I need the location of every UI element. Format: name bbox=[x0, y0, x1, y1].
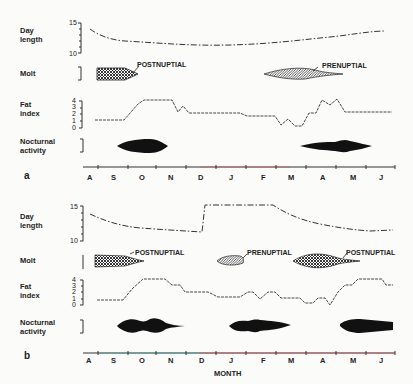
month-label: O bbox=[139, 356, 145, 365]
month-label: M bbox=[288, 173, 294, 182]
month-label: N bbox=[168, 356, 173, 365]
fat-index-curve bbox=[97, 279, 393, 305]
month-label: A bbox=[320, 356, 326, 365]
nocturnal-axis bbox=[80, 139, 83, 152]
month-labels-a: A S O N D J F M A M J bbox=[87, 173, 383, 182]
month-label: J bbox=[379, 356, 383, 365]
molt-postnuptial-shape bbox=[95, 255, 144, 267]
postnuptial-label: POSTNUPTIAL bbox=[135, 249, 185, 256]
month-label: D bbox=[198, 173, 204, 182]
day-length-label-line2: length bbox=[20, 221, 43, 230]
fat-tick-0: 0 bbox=[72, 124, 76, 131]
fat-index-axis bbox=[79, 101, 82, 128]
fat-index-axis bbox=[80, 280, 83, 305]
month-label: J bbox=[229, 356, 233, 365]
molt-label: Molt bbox=[20, 256, 36, 265]
day-length-label-line1: Day bbox=[20, 26, 35, 35]
month-label: N bbox=[168, 173, 173, 182]
day-tick-10: 10 bbox=[69, 50, 77, 57]
fat-label-line1: Fat bbox=[20, 282, 32, 291]
panel-b-label: b bbox=[24, 350, 30, 361]
molt-label: Molt bbox=[20, 69, 36, 78]
nocturnal-blob bbox=[229, 320, 291, 333]
nocturnal-blob bbox=[300, 140, 372, 152]
day-tick-10: 10 bbox=[70, 237, 78, 244]
month-labels-b: A S O N D J F M A M J bbox=[86, 356, 383, 365]
nocturnal-blob bbox=[340, 319, 393, 333]
month-label: A bbox=[320, 173, 326, 182]
nocturnal-blob bbox=[117, 318, 185, 332]
month-label: J bbox=[379, 173, 383, 182]
day-length-label-line1: Day bbox=[20, 212, 35, 221]
panel-a: Day length Molt Fat index Nocturnal acti… bbox=[20, 19, 395, 182]
nocturnal-blob bbox=[117, 139, 168, 153]
postnuptial-label: POSTNUPTIAL bbox=[137, 61, 187, 68]
day-length-label-line2: length bbox=[20, 35, 43, 44]
month-label: D bbox=[199, 356, 205, 365]
month-label: S bbox=[111, 173, 116, 182]
molt-postnuptial-shape bbox=[293, 254, 360, 268]
month-label: M bbox=[350, 356, 356, 365]
month-label: S bbox=[111, 356, 116, 365]
figure: Day length Molt Fat index Nocturnal acti… bbox=[0, 0, 413, 384]
molt-axis bbox=[78, 67, 81, 80]
prenuptial-label: PRENUPTIAL bbox=[322, 62, 367, 69]
x-axis-title: MONTH bbox=[214, 369, 242, 378]
postnuptial-label: POSTNUPTIAL bbox=[346, 249, 396, 256]
fat-tick-1: 1 bbox=[72, 117, 76, 124]
day-length-axis bbox=[80, 206, 83, 241]
month-label: F bbox=[261, 356, 266, 365]
fat-tick-2: 2 bbox=[72, 288, 76, 295]
annotation-pointer bbox=[130, 252, 134, 254]
month-label: A bbox=[86, 356, 92, 365]
month-label: J bbox=[229, 173, 233, 182]
month-label: A bbox=[87, 173, 93, 182]
day-length-curve bbox=[90, 205, 393, 232]
fat-tick-0: 0 bbox=[72, 301, 76, 308]
panel-a-label: a bbox=[24, 170, 30, 181]
day-tick-15: 15 bbox=[70, 203, 78, 210]
month-label: M bbox=[350, 173, 356, 182]
fat-tick-2: 2 bbox=[72, 110, 76, 117]
fat-index-curve bbox=[95, 99, 392, 126]
fat-tick-3: 3 bbox=[72, 103, 76, 110]
nocturnal-label-line2: activity bbox=[20, 327, 47, 336]
month-label: O bbox=[139, 173, 145, 182]
nocturnal-label-line1: Nocturnal bbox=[20, 318, 55, 327]
nocturnal-label-line2: activity bbox=[20, 146, 47, 155]
fat-label-line2: index bbox=[20, 291, 40, 300]
molt-postnuptial-shape bbox=[97, 68, 138, 80]
nocturnal-label-line1: Nocturnal bbox=[20, 137, 55, 146]
month-label: M bbox=[288, 356, 294, 365]
day-length-curve bbox=[90, 29, 385, 45]
molt-prenuptial-shape bbox=[217, 256, 244, 265]
panel-b: Day length Molt Fat index Nocturnal acti… bbox=[20, 203, 396, 378]
nocturnal-axis bbox=[80, 320, 83, 333]
month-label: F bbox=[261, 173, 266, 182]
day-length-axis bbox=[78, 23, 81, 53]
fat-label-line1: Fat bbox=[20, 100, 32, 109]
molt-prenuptial-shape bbox=[264, 68, 343, 79]
prenuptial-label: PRENUPTIAL bbox=[247, 249, 292, 256]
fat-label-line2: index bbox=[20, 109, 40, 118]
day-tick-15: 15 bbox=[69, 19, 77, 26]
